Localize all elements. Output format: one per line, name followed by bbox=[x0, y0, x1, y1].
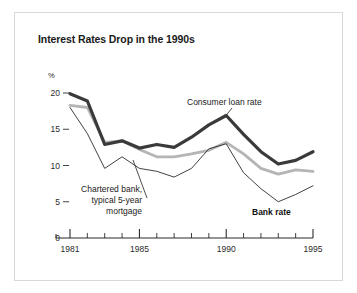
y-tick-label-10: 10 bbox=[51, 161, 61, 171]
x-tick-label-1990: 1990 bbox=[217, 244, 236, 254]
x-axis: 1981198519901995 bbox=[56, 229, 323, 254]
y-axis-unit-label: % bbox=[48, 71, 55, 80]
annotation-bank-rate: Bank rate bbox=[252, 207, 291, 217]
x-tick-label-1981: 1981 bbox=[61, 244, 80, 254]
chart-figure: Interest Rates Drop in the 1990s 2015105… bbox=[0, 0, 357, 293]
annotation-mortgage-line-3: mortgage bbox=[106, 206, 142, 216]
x-tick-label-1985: 1985 bbox=[130, 244, 149, 254]
annotation-mortgage-line-1: Chartered bank, bbox=[81, 184, 142, 194]
line-chart: 20151050 1981198519901995 Consumer loan … bbox=[0, 0, 357, 293]
y-tick-label-20: 20 bbox=[51, 88, 61, 98]
y-axis: 20151050 bbox=[51, 88, 69, 243]
annotation-mortgage-line-2: typical 5-year bbox=[91, 195, 142, 205]
y-tick-label-5: 5 bbox=[55, 197, 60, 207]
x-tick-label-1995: 1995 bbox=[304, 244, 323, 254]
y-tick-label-15: 15 bbox=[51, 124, 61, 134]
annotation-labels: Consumer loan rate Chartered bank, typic… bbox=[81, 97, 291, 217]
annotation-consumer-loan-rate: Consumer loan rate bbox=[187, 97, 262, 107]
